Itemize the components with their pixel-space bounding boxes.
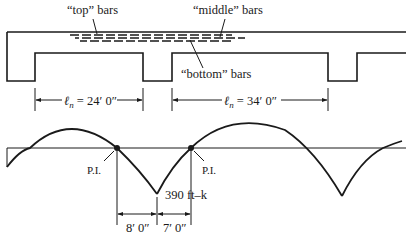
top-bars-label: “top” bars: [67, 3, 118, 17]
moment-diagram: [7, 123, 406, 196]
dim-8ft-label: 8′ 0″: [126, 221, 150, 235]
span1-value: = 24′ 0″: [74, 94, 117, 108]
reinforcing-bars: [70, 35, 245, 41]
pi-right-leader: [194, 151, 204, 161]
middle-bars-label: “middle” bars: [193, 3, 263, 17]
dim-7ft-label: 7′ 0″: [163, 221, 187, 235]
diagram-svg: “top” bars “middle” bars “bottom” bars ℓ…: [0, 0, 406, 239]
span2-label: ℓn = 34′ 0″: [224, 94, 277, 110]
pi-left-leader: [104, 151, 114, 161]
moment-curve-span1: [7, 129, 157, 194]
peak-moment-label: 390 ft–k: [165, 188, 208, 202]
inflection-point-right: [188, 145, 194, 151]
inflection-point-left: [114, 145, 120, 151]
pi-left-label: P.I.: [87, 164, 101, 176]
pi-right-label: P.I.: [202, 164, 216, 176]
leader-lines: [93, 19, 225, 68]
reinforced-concrete-beam-diagram: “top” bars “middle” bars “bottom” bars ℓ…: [0, 0, 406, 239]
bottom-bars-leader: [190, 40, 203, 68]
pi-leaders: [104, 151, 204, 161]
moment-curve-span3: [342, 141, 402, 196]
moment-curve-span2: [157, 123, 342, 196]
bottom-bars-label: “bottom” bars: [181, 67, 252, 81]
span1-label: ℓn = 24′ 0″: [64, 94, 117, 110]
span2-value: = 34′ 0″: [234, 94, 277, 108]
